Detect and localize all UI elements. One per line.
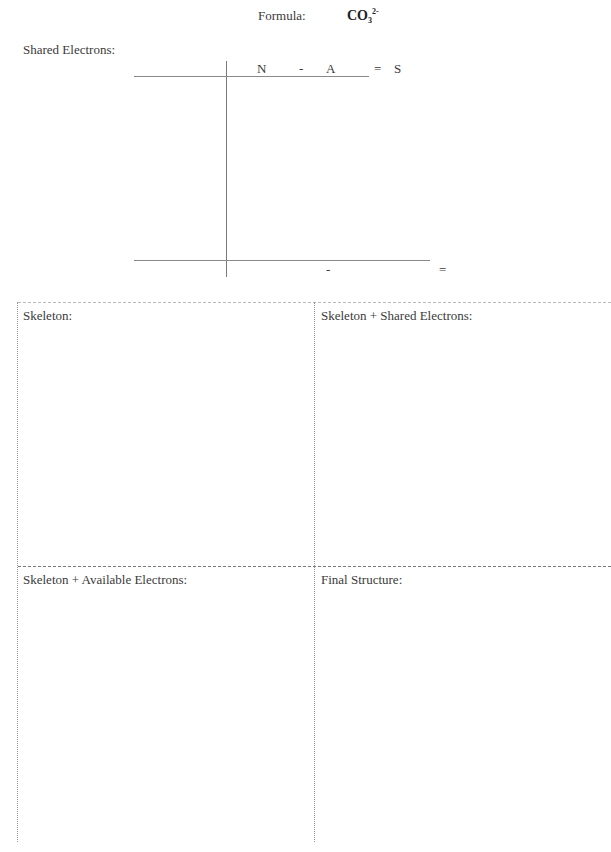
box-skeleton-shared: Skeleton + Shared Electrons: bbox=[321, 308, 472, 324]
total-equals: = bbox=[439, 262, 446, 278]
col-a: A bbox=[326, 61, 335, 77]
grid-center-divider bbox=[314, 302, 315, 842]
box-final-structure: Final Structure: bbox=[321, 572, 402, 588]
shared-electrons-label: Shared Electrons: bbox=[23, 42, 115, 58]
formula-label: Formula: bbox=[258, 8, 306, 24]
formula-charge: 2- bbox=[372, 7, 379, 16]
table-divider bbox=[226, 61, 227, 277]
formula-base: CO bbox=[347, 8, 368, 23]
total-minus: - bbox=[326, 262, 330, 278]
box-skeleton: Skeleton: bbox=[23, 308, 72, 324]
grid-left-border bbox=[17, 302, 18, 842]
table-bottom-rule bbox=[134, 260, 430, 261]
col-equals: = bbox=[374, 61, 381, 77]
col-s: S bbox=[394, 61, 401, 77]
col-n: N bbox=[257, 61, 266, 77]
col-minus: - bbox=[299, 61, 303, 77]
formula-subscript: 3 bbox=[368, 16, 372, 25]
box-skeleton-available: Skeleton + Available Electrons: bbox=[23, 572, 187, 588]
formula-value: CO32- bbox=[347, 7, 379, 25]
